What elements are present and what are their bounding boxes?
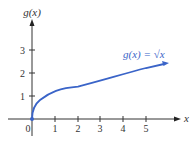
x-axis-arrow-icon <box>174 117 181 122</box>
x-tick-label-1: 1 <box>53 123 58 134</box>
x-tick-label-3: 3 <box>98 123 103 134</box>
y-tick-label-2: 2 <box>20 68 25 79</box>
sqrt-function-graph: 0 1 2 3 4 5 1 2 3 g(x) x g(x) = √x <box>0 0 193 149</box>
y-tick-label-3: 3 <box>20 45 25 56</box>
x-tick-label-0: 0 <box>26 123 31 134</box>
x-tick-label-5: 5 <box>144 123 149 134</box>
sqrt-curve <box>32 64 164 119</box>
y-axis-title: g(x) <box>23 6 41 19</box>
y-tick-label-1: 1 <box>20 91 25 102</box>
x-tick-label-2: 2 <box>76 123 81 134</box>
curve-arrow-icon <box>162 61 169 66</box>
y-axis-arrow-icon <box>30 19 35 26</box>
x-tick-label-4: 4 <box>121 123 126 134</box>
origin-point <box>30 117 34 121</box>
curve-label: g(x) = √x <box>123 48 165 61</box>
x-axis-title: x <box>183 112 189 124</box>
